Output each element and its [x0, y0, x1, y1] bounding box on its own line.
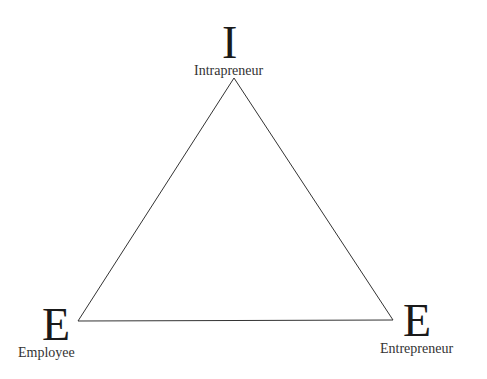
- top-label: Intrapreneur: [194, 64, 263, 78]
- top-letter: I: [222, 20, 237, 66]
- bottom-right-label: Entrepreneur: [380, 342, 453, 356]
- bottom-left-label: Employee: [18, 346, 75, 360]
- triangle-shape: [78, 78, 393, 321]
- bottom-left-letter: E: [42, 302, 70, 348]
- bottom-right-letter: E: [403, 298, 431, 344]
